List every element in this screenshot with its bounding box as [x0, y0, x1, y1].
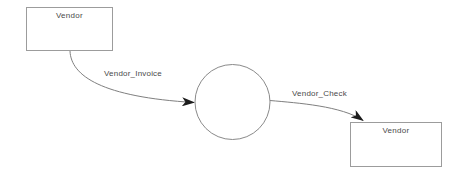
entity-vendor-target-label: Vendor [351, 123, 441, 135]
dfd-canvas: Vendor Vendor Vendor_Invoice Vendor_Chec… [0, 0, 462, 178]
entity-vendor-source-label: Vendor [27, 8, 112, 20]
flow-line-vendor-check [270, 101, 363, 121]
process-circle [195, 65, 270, 140]
flow-label-vendor-check: Vendor_Check [292, 89, 347, 98]
entity-vendor-source: Vendor [26, 7, 113, 51]
entity-vendor-target: Vendor [350, 122, 442, 167]
flow-label-vendor-invoice: Vendor_Invoice [104, 69, 162, 78]
